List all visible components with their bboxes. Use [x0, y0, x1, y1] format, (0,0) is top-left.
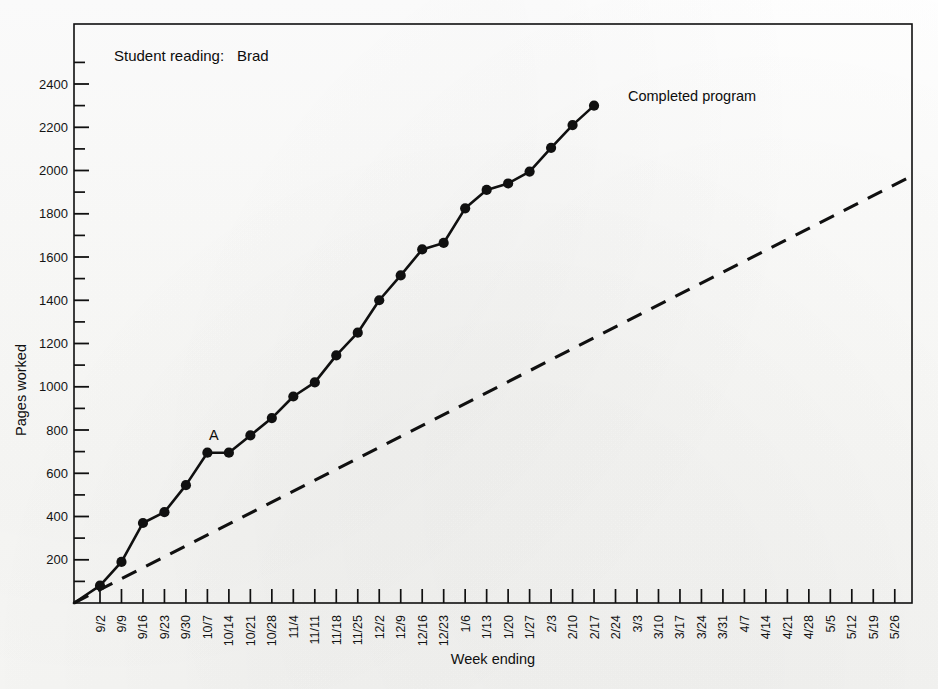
y-tick-label: 800 [46, 423, 68, 438]
y-tick-label: 2000 [39, 163, 68, 178]
progress-line-chart: 2400 2200 2000 1800 1600 1400 1200 1000 … [0, 0, 938, 689]
data-point-marker [417, 244, 427, 254]
x-tick-label: 9/2 [94, 615, 108, 632]
x-tick-label: 12/2 [373, 615, 387, 639]
y-axis-tick-labels: 2400 2200 2000 1800 1600 1400 1200 1000 … [39, 77, 68, 568]
y-tick-label: 1800 [39, 206, 68, 221]
data-point-marker [567, 120, 577, 130]
x-tick-label: 11/18 [330, 615, 344, 645]
data-point-marker [159, 507, 169, 517]
data-point-marker [288, 391, 298, 401]
x-tick-label: 1/13 [480, 615, 494, 639]
data-point-marker [439, 238, 449, 248]
x-tick-label: 5/19 [867, 615, 881, 639]
y-tick-label: 1400 [39, 293, 68, 308]
annotation-completed-program: Completed program [628, 88, 756, 104]
data-point-marker [310, 377, 320, 387]
x-tick-label: 3/31 [716, 615, 730, 639]
x-tick-label: 1/20 [502, 615, 516, 639]
data-point-marker [138, 518, 148, 528]
annotation-a: A [209, 427, 219, 443]
x-tick-label: 12/23 [437, 615, 451, 646]
chart-header-value: Brad [237, 47, 269, 64]
x-tick-label: 4/7 [738, 615, 752, 632]
plot-frame [74, 24, 912, 603]
x-tick-label: 3/17 [673, 615, 687, 639]
y-axis-minor-ticks [74, 62, 85, 581]
data-point-marker [589, 101, 599, 111]
x-tick-label: 9/23 [158, 615, 172, 639]
x-tick-label: 11/25 [351, 615, 365, 645]
data-point-marker [546, 143, 556, 153]
chart-header-label: Student reading: [114, 47, 224, 64]
x-tick-label: 2/17 [588, 615, 602, 639]
x-tick-label: 1/27 [523, 615, 537, 639]
x-tick-label: 10/14 [222, 615, 236, 646]
x-tick-label: 2/24 [609, 615, 623, 639]
x-axis-tick-labels: 9/29/99/169/239/3010/710/1410/2110/2811/… [94, 615, 903, 646]
x-tick-label: 10/28 [265, 615, 279, 646]
data-point-marker [245, 430, 255, 440]
data-point-marker [460, 203, 470, 213]
data-point-marker [374, 295, 384, 305]
data-point-marker [181, 480, 191, 490]
x-tick-label: 12/9 [394, 615, 408, 639]
data-point-marker [503, 178, 513, 188]
y-tick-label: 600 [46, 466, 68, 481]
data-point-marker [353, 328, 363, 338]
data-point-marker [482, 185, 492, 195]
data-point-marker [525, 166, 535, 176]
x-tick-label: 5/12 [845, 615, 859, 639]
data-point-marker [396, 270, 406, 280]
x-tick-label: 3/10 [652, 615, 666, 639]
x-tick-label: 9/30 [179, 615, 193, 639]
data-point-marker [95, 581, 105, 591]
x-tick-label: 10/7 [201, 615, 215, 639]
y-tick-label: 1200 [39, 336, 68, 351]
data-point-marker [267, 413, 277, 423]
x-tick-label: 4/21 [781, 615, 795, 639]
y-tick-label: 1000 [39, 379, 68, 394]
chart-page: 2400 2200 2000 1800 1600 1400 1200 1000 … [0, 0, 938, 689]
x-tick-label: 11/11 [308, 615, 322, 644]
y-tick-label: 400 [46, 509, 68, 524]
y-tick-label: 2400 [39, 77, 68, 92]
y-tick-label: 200 [46, 552, 68, 567]
x-tick-label: 11/4 [287, 615, 301, 638]
x-tick-label: 4/28 [802, 615, 816, 639]
data-point-marker [224, 448, 234, 458]
x-tick-label: 10/21 [244, 615, 258, 646]
x-tick-label: 2/3 [545, 615, 559, 632]
data-point-marker [202, 448, 212, 458]
y-tick-label: 1600 [39, 250, 68, 265]
data-point-marker [331, 350, 341, 360]
x-tick-label: 2/10 [566, 615, 580, 639]
data-point-marker [116, 557, 126, 567]
x-tick-label: 3/24 [695, 615, 709, 639]
goal-line-dashed [74, 176, 912, 603]
x-tick-label: 1/6 [459, 615, 473, 632]
x-tick-label: 5/26 [888, 615, 902, 639]
x-axis-ticks [100, 589, 895, 603]
x-tick-label: 5/5 [824, 615, 838, 632]
x-tick-label: 3/3 [631, 615, 645, 632]
x-tick-label: 12/16 [416, 615, 430, 646]
x-tick-label: 9/16 [136, 615, 150, 639]
x-tick-label: 9/9 [115, 615, 129, 632]
x-tick-label: 4/14 [759, 615, 773, 639]
y-tick-label: 2200 [39, 120, 68, 135]
y-axis-title: Pages worked [13, 344, 29, 436]
x-axis-title: Week ending [451, 651, 535, 667]
